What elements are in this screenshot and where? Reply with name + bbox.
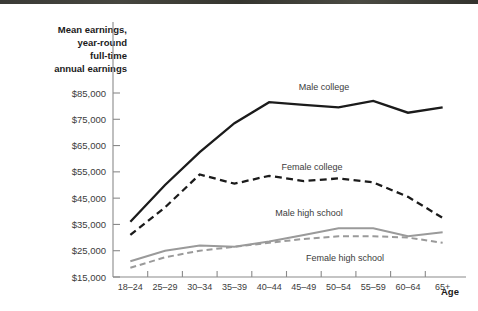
y-axis-tick-labels: $85,000$75,000$65,000$55,000$45,000$35,0… xyxy=(72,88,106,283)
series-annotation-female-high-school: Female high school xyxy=(306,253,384,263)
y-tick-label-3: $55,000 xyxy=(72,166,106,177)
y-axis-title-line-1: year-round xyxy=(77,37,127,48)
y-axis-title: Mean earnings, year-round full-time annu… xyxy=(54,24,127,74)
series-line-male-high-school xyxy=(130,228,442,261)
chart-canvas: Mean earnings, year-round full-time annu… xyxy=(0,0,478,311)
series-annotation-female-college: Female college xyxy=(281,162,342,172)
x-tick-label-3: 35–39 xyxy=(222,282,247,292)
y-tick-label-2: $65,000 xyxy=(72,140,106,151)
x-tick-label-1: 25–29 xyxy=(153,282,178,292)
y-tick-label-1: $75,000 xyxy=(72,114,106,125)
y-axis-tick-marks xyxy=(113,93,120,277)
y-tick-label-5: $35,000 xyxy=(72,219,106,230)
x-tick-label-4: 40–44 xyxy=(257,282,282,292)
y-tick-label-7: $15,000 xyxy=(72,272,106,283)
y-axis-title-line-0: Mean earnings, xyxy=(58,24,127,35)
series-annotation-male-college: Male college xyxy=(299,82,350,92)
x-tick-label-7: 55–59 xyxy=(361,282,386,292)
x-axis-name: Age xyxy=(441,286,459,297)
x-axis-tick-labels: 18–2425–2930–3435–3940–4445–4950–5455–59… xyxy=(118,282,450,292)
series-line-female-high-school xyxy=(130,236,442,268)
series-lines xyxy=(130,101,442,268)
x-tick-label-6: 50–54 xyxy=(326,282,351,292)
y-tick-label-4: $45,000 xyxy=(72,193,106,204)
y-tick-label-0: $85,000 xyxy=(72,88,106,99)
series-annotation-male-high-school: Male high school xyxy=(275,208,343,218)
y-axis-title-line-3: annual earnings xyxy=(54,63,127,74)
x-tick-label-2: 30–34 xyxy=(187,282,212,292)
x-tick-label-0: 18–24 xyxy=(118,282,143,292)
x-tick-label-5: 45–49 xyxy=(291,282,316,292)
x-axis-tick-marks xyxy=(148,271,426,277)
earnings-by-age-line-chart: Mean earnings, year-round full-time annu… xyxy=(0,0,478,311)
x-tick-label-8: 60–64 xyxy=(395,282,420,292)
y-tick-label-6: $25,000 xyxy=(72,245,106,256)
series-line-female-college xyxy=(130,174,442,234)
y-axis-title-line-2: full-time xyxy=(90,50,127,61)
